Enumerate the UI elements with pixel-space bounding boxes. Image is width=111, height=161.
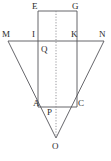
vertex-label-G: G [72, 2, 79, 11]
vertex-label-N: N [99, 30, 106, 39]
vertex-label-I: I [32, 30, 35, 39]
vertex-label-Q: Q [41, 45, 48, 54]
vertex-label-C: C [78, 99, 84, 108]
vertex-label-A: A [33, 99, 40, 108]
geometry-figure: E G M I K N Q A P C O [0, 0, 111, 161]
vertex-label-O: O [52, 142, 59, 151]
vertex-label-E: E [32, 2, 38, 11]
triangle-side-MO-line [8, 41, 56, 138]
vertex-label-P: P [47, 108, 52, 117]
triangle-side-NO-line [56, 41, 104, 138]
vertex-label-K: K [71, 30, 78, 39]
geometry-diagram-canvas [0, 0, 111, 161]
vertex-label-M: M [2, 30, 10, 39]
